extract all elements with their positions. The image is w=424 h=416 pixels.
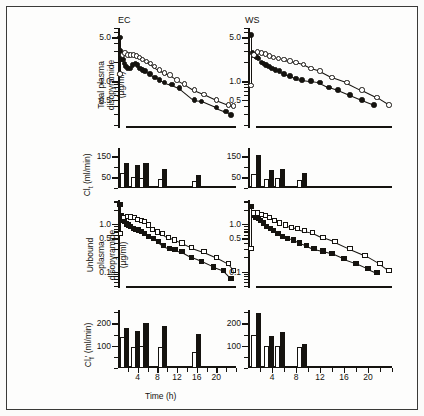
y-minor-tick <box>244 43 248 44</box>
bar <box>280 332 285 368</box>
data-point <box>341 256 346 261</box>
data-point <box>179 249 184 254</box>
x-tick <box>236 368 237 372</box>
y-minor-tick <box>114 226 118 227</box>
x-tick-label: 20 <box>363 373 372 382</box>
data-point <box>182 81 187 86</box>
x-tick <box>148 368 149 372</box>
data-point <box>248 246 253 251</box>
data-point <box>289 225 294 230</box>
y-minor-tick <box>114 210 118 211</box>
data-point <box>179 240 184 245</box>
y-minor-tick <box>244 229 248 230</box>
y-minor-tick <box>114 279 118 280</box>
data-point <box>353 261 358 266</box>
y-minor-tick <box>114 91 118 92</box>
panel-total-clearance-WS: 15050 <box>248 148 392 188</box>
panel-baseline-rule <box>256 286 392 288</box>
data-point <box>329 75 334 80</box>
y-major-tick <box>242 346 248 347</box>
data-point <box>160 231 165 236</box>
x-tick <box>332 368 333 372</box>
data-point <box>332 239 337 244</box>
y-minor-tick <box>114 87 118 88</box>
panel-unbound-clearance-EC: 20010048121620 <box>118 310 236 368</box>
data-point <box>308 78 313 83</box>
y-minor-tick <box>114 274 118 275</box>
y-major-tick <box>242 238 248 239</box>
y-major-tick <box>112 346 118 347</box>
bar <box>256 155 261 188</box>
data-point <box>281 57 286 62</box>
y-minor-tick <box>244 87 248 88</box>
data-point <box>297 240 302 245</box>
data-point <box>167 72 172 77</box>
y-minor-tick <box>114 286 118 287</box>
x-tick-label: 4 <box>270 373 275 382</box>
y-minor-tick <box>114 84 118 85</box>
data-point <box>386 102 391 107</box>
y-minor-tick <box>114 243 118 244</box>
panel-title-right: WS <box>245 16 260 25</box>
panel-title-left: EC <box>118 16 131 25</box>
data-point <box>317 68 322 73</box>
panel-unbound-plasma-EC: 1.00.50.1 <box>118 200 236 288</box>
data-point <box>344 80 349 85</box>
y-minor-tick <box>244 249 248 250</box>
data-point <box>386 268 391 273</box>
bar <box>256 313 261 368</box>
ylabel-total-clearance-symbol: Cl <box>82 188 92 196</box>
data-point <box>162 70 167 75</box>
panel-unbound-plasma-WS: 1.00.50.1 <box>248 200 392 288</box>
y-minor-tick <box>114 106 118 107</box>
data-point <box>293 76 298 81</box>
y-tick-label: 100 <box>227 341 241 350</box>
data-point <box>326 85 331 90</box>
x-tick-label: 8 <box>155 373 160 382</box>
panel-total-plasma-WS: 5.01.00.5 <box>248 28 392 128</box>
data-point <box>248 83 253 88</box>
y-major-tick <box>242 100 248 101</box>
x-tick <box>260 368 261 372</box>
y-minor-tick <box>114 335 118 336</box>
ylabel-unbound-l2: plasma <box>96 241 106 268</box>
data-point <box>201 249 206 254</box>
y-tick-label: 50 <box>102 173 111 182</box>
data-point <box>362 253 367 258</box>
data-point <box>221 268 226 273</box>
y-minor-tick <box>114 312 118 313</box>
ylabel-total-clearance-subscript: t <box>87 186 94 188</box>
y-tick-label: 1.0 <box>99 220 111 229</box>
y-major-tick <box>242 323 248 324</box>
y-tick-label: 1.0 <box>99 77 111 86</box>
bar <box>196 175 201 188</box>
data-point <box>374 95 379 100</box>
y-major-tick <box>112 100 118 101</box>
y-major-tick <box>112 323 118 324</box>
panel-baseline-rule <box>256 126 392 128</box>
y-minor-tick <box>244 125 248 126</box>
y-minor-tick <box>114 62 118 63</box>
data-point <box>283 222 288 227</box>
x-tick <box>128 368 129 372</box>
y-minor-tick <box>244 286 248 287</box>
y-minor-tick <box>244 91 248 92</box>
y-major-tick <box>242 81 248 82</box>
y-tick-label: 50 <box>232 173 241 182</box>
data-point <box>374 270 379 275</box>
y-major-tick <box>242 272 248 273</box>
x-tick <box>284 368 285 372</box>
data-point <box>365 266 370 271</box>
bar <box>302 173 307 188</box>
data-point <box>167 246 172 251</box>
x-axis: 48121620 <box>118 368 236 386</box>
y-tick-label: 200 <box>227 319 241 328</box>
bar <box>124 328 129 368</box>
y-minor-tick <box>114 357 118 358</box>
x-tick-label: 12 <box>172 373 181 382</box>
y-major-tick <box>242 177 248 178</box>
data-point <box>329 251 334 256</box>
data-point <box>281 71 286 76</box>
ylabel-unbound-1: Unbound <box>85 207 95 303</box>
x-tick-label: 12 <box>315 373 324 382</box>
